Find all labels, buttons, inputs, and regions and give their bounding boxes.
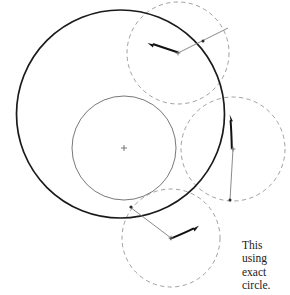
- right-radius-line: [230, 149, 233, 200]
- caption-line-2: using: [242, 252, 286, 265]
- tangent-dot-right-lower: [229, 199, 232, 202]
- figure-root: This using exact circle.: [0, 0, 290, 295]
- caption-line-3: exact: [242, 266, 286, 279]
- caption-line-4: circle.: [242, 279, 286, 292]
- caption-line-1: This: [242, 239, 286, 252]
- tangent-dot-top-right: [202, 40, 205, 43]
- inner-circle-center-mark: [121, 145, 127, 151]
- figure-caption: This using exact circle.: [242, 239, 286, 292]
- top-right-arrow: [148, 43, 178, 52]
- bottom-arrow: [171, 226, 199, 239]
- outer-enclosing-circle: [17, 10, 225, 218]
- bottom-radius-line: [130, 207, 171, 238]
- right-arrow: [230, 115, 233, 149]
- tangent-dot-bottom-left: [129, 205, 132, 208]
